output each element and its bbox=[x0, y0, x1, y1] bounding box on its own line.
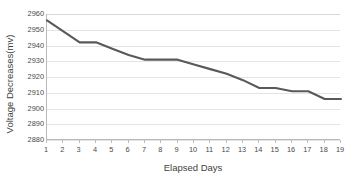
y-axis-tick-label: 2900 bbox=[18, 103, 44, 115]
y-axis-tick-label: 2960 bbox=[18, 8, 44, 20]
plot-area bbox=[46, 14, 340, 140]
x-axis-tick-label-group: 12345678910111213141516171819 bbox=[46, 143, 340, 157]
y-axis-title: Voltage Decreases(mv) bbox=[2, 18, 18, 150]
y-axis-tick-label-group: 296029502940293029202910290028902880 bbox=[18, 9, 44, 141]
voltage-decrease-line-chart: Voltage Decreases(mv) 296029502940293029… bbox=[0, 0, 347, 183]
y-axis-tick-label: 2950 bbox=[18, 24, 44, 36]
y-axis-tick-label: 2930 bbox=[18, 55, 44, 67]
x-axis-tick-label: 19 bbox=[329, 143, 347, 156]
y-axis-tick-label: 2890 bbox=[18, 118, 44, 130]
data-line-svg bbox=[47, 14, 341, 140]
y-axis-tick-label: 2940 bbox=[18, 40, 44, 52]
voltage-series-line bbox=[47, 20, 341, 99]
y-axis-tick-label: 2910 bbox=[18, 87, 44, 99]
x-axis-title: Elapsed Days bbox=[46, 160, 340, 176]
y-axis-tick-label: 2920 bbox=[18, 71, 44, 83]
